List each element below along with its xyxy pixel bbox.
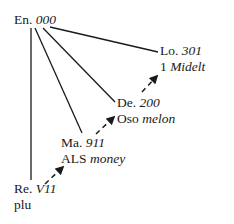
subtitle-italic: Midelt xyxy=(170,59,205,74)
node-abbr: De. xyxy=(117,95,136,110)
subtitle-plain: Oso xyxy=(117,111,139,126)
node-root-en: En. 000 xyxy=(14,12,56,28)
node-code: 200 xyxy=(140,95,160,110)
subtitle-plain: 1 xyxy=(160,59,167,74)
dashed-arrow-ma-de xyxy=(96,117,114,134)
node-abbr: Lo. xyxy=(160,43,178,58)
node-subtitle: ALS money xyxy=(61,151,125,167)
node-code: 000 xyxy=(36,12,56,27)
node-lo: Lo. 301 1 Midelt xyxy=(160,43,205,75)
node-ma: Ma. 911 ALS money xyxy=(61,135,125,167)
subtitle-italic: money xyxy=(90,151,125,166)
subtitle-italic: melon xyxy=(142,111,175,126)
node-subtitle: plu xyxy=(14,197,57,213)
node-subtitle: 1 Midelt xyxy=(160,59,205,75)
node-code: 911 xyxy=(86,135,105,150)
edge-en-lo xyxy=(50,27,158,52)
subtitle-plain: ALS xyxy=(61,151,87,166)
node-abbr: En. xyxy=(14,12,32,27)
dashed-arrow-de-lo xyxy=(142,76,157,92)
node-subtitle: Oso melon xyxy=(117,111,175,127)
subtitle-plain: plu xyxy=(14,197,31,212)
node-abbr: Ma. xyxy=(61,135,82,150)
node-re: Re. V11 plu xyxy=(14,181,57,213)
node-abbr: Re. xyxy=(14,181,32,196)
node-code: 301 xyxy=(182,43,202,58)
node-code: V11 xyxy=(36,181,57,196)
node-de: De. 200 Oso melon xyxy=(117,95,175,127)
